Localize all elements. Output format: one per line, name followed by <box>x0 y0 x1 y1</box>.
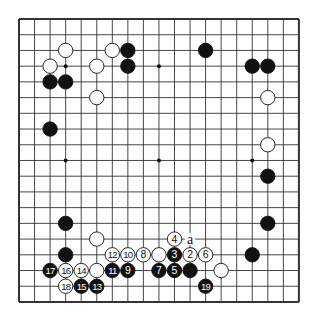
move-19: 19 <box>198 279 212 293</box>
star-point <box>64 158 68 162</box>
white-stone <box>90 232 104 246</box>
move-number: 10 <box>123 249 132 260</box>
move-12: 12 <box>105 248 119 262</box>
black-stone <box>121 59 135 73</box>
white-stone <box>214 263 228 277</box>
move-number: 12 <box>108 249 117 260</box>
move-4: 4 <box>167 232 181 246</box>
move-number: 8 <box>140 248 146 260</box>
move-17: 17 <box>43 263 57 277</box>
star-point <box>64 64 68 68</box>
move-number: 11 <box>108 265 117 276</box>
move-6: 6 <box>198 248 212 262</box>
move-5: 5 <box>167 263 181 277</box>
move-number: 9 <box>125 264 131 276</box>
move-7: 7 <box>152 263 166 277</box>
board-labels-layer: a <box>185 232 195 247</box>
move-number: 4 <box>172 233 178 245</box>
black-stone <box>261 59 275 73</box>
move-18: 18 <box>58 279 72 293</box>
move-number: 6 <box>203 248 209 260</box>
star-point <box>250 158 254 162</box>
move-2: 2 <box>183 248 197 262</box>
black-stone <box>58 248 72 262</box>
move-number: 19 <box>201 281 210 292</box>
white-stone <box>261 138 275 152</box>
black-stone <box>58 75 72 89</box>
move-9: 9 <box>121 263 135 277</box>
move-number: 5 <box>172 264 178 276</box>
move-number: 14 <box>77 265 86 276</box>
black-stone <box>261 169 275 183</box>
white-stone <box>261 90 275 104</box>
white-stone <box>105 43 119 57</box>
move-number: 3 <box>172 248 178 260</box>
black-stone <box>198 43 212 57</box>
move-16: 16 <box>58 263 72 277</box>
move-11: 11 <box>105 263 119 277</box>
move-13: 13 <box>90 279 104 293</box>
star-point <box>157 158 161 162</box>
black-stone <box>43 122 57 136</box>
white-stone <box>90 263 104 277</box>
move-number: 7 <box>156 264 162 276</box>
black-stone <box>121 43 135 57</box>
black-stone <box>58 216 72 230</box>
move-number: 15 <box>77 281 86 292</box>
point-label: a <box>187 232 194 247</box>
move-number: 2 <box>187 248 193 260</box>
black-stone <box>245 59 259 73</box>
star-point <box>157 64 161 68</box>
move-number: 18 <box>61 281 70 292</box>
go-board-diagram: 2345678910111213141516171819 a <box>0 0 316 321</box>
black-stone <box>261 216 275 230</box>
white-stone <box>58 43 72 57</box>
white-stone <box>90 90 104 104</box>
black-stone <box>183 263 197 277</box>
white-stone <box>90 59 104 73</box>
move-number: 13 <box>92 281 101 292</box>
black-stone <box>43 75 57 89</box>
move-number: 16 <box>61 265 70 276</box>
move-15: 15 <box>74 279 88 293</box>
move-number: 17 <box>46 265 55 276</box>
move-10: 10 <box>121 248 135 262</box>
move-14: 14 <box>74 263 88 277</box>
white-stone <box>43 59 57 73</box>
move-8: 8 <box>136 248 150 262</box>
move-3: 3 <box>167 248 181 262</box>
white-stone <box>152 248 166 262</box>
black-stone <box>245 248 259 262</box>
